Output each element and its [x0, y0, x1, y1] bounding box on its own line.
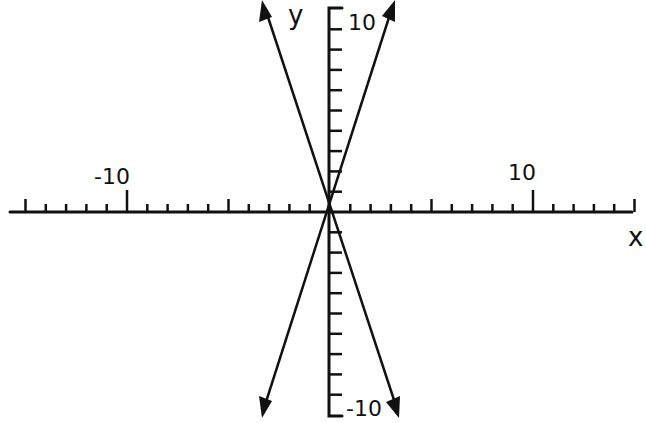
graph-canvas: [0, 0, 646, 423]
arrowhead-up-left: [259, 0, 272, 22]
arrowhead-down-left: [259, 396, 272, 418]
y-axis-label: y: [288, 2, 303, 28]
arrowhead-down-right: [386, 396, 400, 418]
arrowhead-up-right: [382, 0, 395, 22]
x-tick-label-pos10: 10: [508, 162, 536, 184]
y-tick-label-pos10: 10: [348, 12, 376, 34]
x-tick-label-neg10: -10: [94, 166, 130, 188]
y-tick-label-neg10: -10: [346, 398, 382, 420]
x-axis-label: x: [628, 224, 643, 250]
